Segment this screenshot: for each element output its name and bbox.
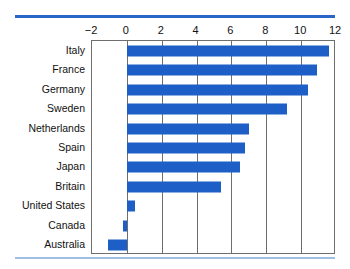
x-tick-label: 2 [158,24,164,37]
y-category-label: Spain [58,142,85,153]
bar [127,143,246,154]
bar [127,65,317,76]
x-tick-label: 12 [329,24,341,37]
bar [108,240,127,251]
y-category-label: Japan [56,161,85,172]
bar [127,84,308,95]
bottom-rule [15,257,335,259]
figure-canvas: −2024681012 ItalyFranceGermanySwedenNeth… [0,0,350,269]
x-tick-label: 8 [262,24,268,37]
y-category-label: Canada [48,219,85,230]
bar-series [92,41,334,253]
plot-area [91,40,335,254]
x-tick-label: 0 [123,24,129,37]
bar [127,181,221,192]
y-category-label: France [52,64,85,75]
y-category-label: Britain [55,180,85,191]
x-tick-label: 4 [193,24,199,37]
top-rule [15,15,335,18]
bar [123,220,126,231]
y-category-label: Australia [44,239,85,250]
bar [127,201,135,212]
y-category-label: United States [22,200,85,211]
bar [127,104,287,115]
y-category-label: Netherlands [28,122,85,133]
bar-chart: −2024681012 ItalyFranceGermanySwedenNeth… [0,24,350,254]
bar [127,162,240,173]
y-category-label: Sweden [47,103,85,114]
bar [127,123,249,134]
x-tick-label: −2 [85,24,98,37]
y-axis-category-labels: ItalyFranceGermanySwedenNetherlandsSpain… [0,40,89,254]
y-category-label: Italy [66,44,85,55]
y-category-label: Germany [42,83,85,94]
x-tick-label: 6 [227,24,233,37]
bar [127,45,329,56]
x-tick-label: 10 [294,24,306,37]
x-axis-tick-labels: −2024681012 [0,24,350,38]
